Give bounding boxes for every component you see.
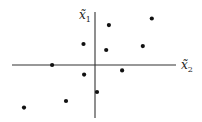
data-point bbox=[82, 73, 86, 77]
data-points bbox=[22, 16, 154, 109]
data-point bbox=[64, 99, 68, 103]
data-point bbox=[81, 42, 85, 46]
horizontal-axis-label: x̃2 bbox=[181, 58, 193, 74]
scatter-diagram: x̃1 x̃2 bbox=[0, 0, 202, 122]
data-point bbox=[107, 23, 111, 27]
data-point bbox=[50, 63, 54, 67]
data-point bbox=[95, 90, 99, 94]
data-point bbox=[150, 16, 154, 20]
data-point bbox=[141, 44, 145, 48]
vertical-axis-label: x̃1 bbox=[79, 8, 91, 24]
data-point bbox=[104, 48, 108, 52]
data-point bbox=[22, 106, 26, 110]
data-point bbox=[120, 68, 124, 72]
